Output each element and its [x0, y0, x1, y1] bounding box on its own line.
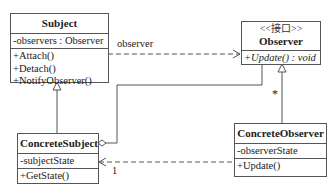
realization-arrow: [278, 64, 286, 123]
class-header: <<接口>> Observer: [242, 22, 320, 50]
attribute: -observers : Observer: [13, 35, 106, 48]
methods-section: +Update(): [235, 158, 326, 174]
class-name: Subject: [11, 14, 108, 33]
class-concrete-subject[interactable]: ConcreteSubject -subjectState +GetState(…: [17, 133, 99, 184]
subject-dependency-arrow: [99, 158, 234, 166]
class-name: ConcreteObserver: [235, 124, 326, 143]
method: +NotifyObserver(): [13, 75, 106, 88]
methods-section: +Update() : void: [242, 50, 320, 66]
methods-section: +GetState(): [18, 168, 98, 184]
class-observer[interactable]: <<接口>> Observer +Update() : void: [241, 21, 321, 65]
class-name: ConcreteSubject: [18, 134, 98, 153]
attributes-section: -observerState: [235, 143, 326, 159]
attributes-section: -subjectState: [18, 153, 98, 169]
observer-association-label: observer: [117, 38, 153, 50]
multiplicity-many-label: *: [272, 88, 278, 100]
attributes-section: -observers : Observer: [11, 33, 108, 49]
method: +GetState(): [20, 170, 96, 183]
method: +Attach(): [13, 50, 106, 63]
observer-dependency-arrow: [108, 50, 240, 58]
attribute: -subjectState: [20, 155, 96, 168]
class-subject[interactable]: Subject -observers : Observer +Attach() …: [10, 13, 109, 83]
attribute: -observerState: [237, 145, 324, 158]
generalization-arrow: [53, 82, 61, 133]
stereotype-label: <<接口>>: [244, 23, 318, 35]
methods-section: +Attach() +Detach() +NotifyObserver(): [11, 48, 108, 89]
class-name: Observer: [259, 35, 303, 47]
class-concrete-observer[interactable]: ConcreteObserver -observerState +Update(…: [234, 123, 327, 177]
method: +Detach(): [13, 63, 106, 76]
method: +Update(): [237, 160, 324, 173]
method: +Update() : void: [244, 52, 318, 65]
multiplicity-one-label: 1: [112, 165, 117, 177]
